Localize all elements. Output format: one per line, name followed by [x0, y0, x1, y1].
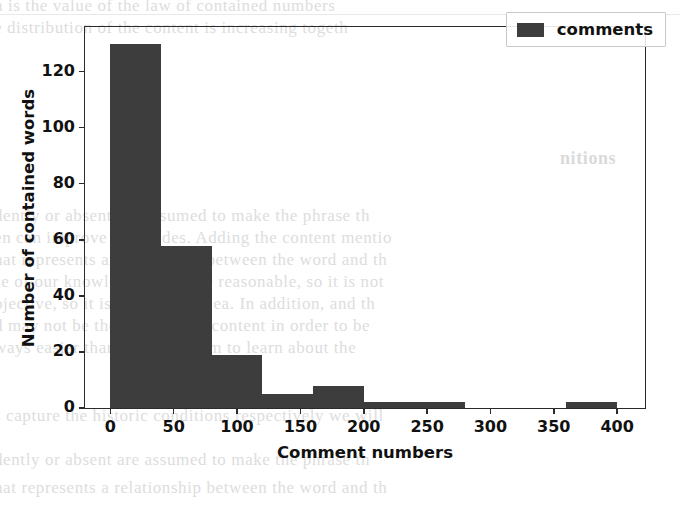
x-tick-label: 200 — [347, 417, 380, 436]
x-tick-mark — [110, 408, 112, 414]
x-tick-label: 100 — [220, 417, 253, 436]
x-axis-label: Comment numbers — [277, 443, 453, 462]
legend-swatch-comments — [517, 23, 544, 37]
y-tick-mark — [79, 183, 85, 185]
x-tick-label: 50 — [163, 417, 185, 436]
histogram-bar — [414, 402, 465, 408]
bars-layer — [85, 27, 645, 408]
x-tick-mark — [553, 408, 555, 414]
histogram-bar — [313, 386, 364, 408]
x-tick-mark — [300, 408, 302, 414]
plot-area: 020406080100120 050100150200250300350400 — [84, 26, 646, 409]
x-tick-label: 0 — [105, 417, 116, 436]
legend-label-comments: comments — [557, 20, 653, 39]
y-tick-mark — [79, 71, 85, 73]
y-tick-label: 120 — [42, 61, 75, 80]
x-tick-mark — [363, 408, 365, 414]
x-tick-label: 150 — [284, 417, 317, 436]
y-axis-label: Number of contained words — [19, 89, 38, 347]
histogram-bar — [262, 394, 313, 408]
y-tick-label: 100 — [42, 117, 75, 136]
x-tick-label: 400 — [600, 417, 633, 436]
y-tick-mark — [79, 407, 85, 409]
y-tick-label: 0 — [64, 397, 75, 416]
x-tick-mark — [616, 408, 618, 414]
y-tick-mark — [79, 295, 85, 297]
x-tick-label: 350 — [537, 417, 570, 436]
y-tick-label: 20 — [53, 341, 75, 360]
histogram-bar — [110, 44, 161, 408]
y-tick-label: 40 — [53, 285, 75, 304]
histogram-figure: Number of contained words Comment number… — [0, 0, 680, 508]
x-tick-mark — [426, 408, 428, 414]
x-tick-label: 250 — [410, 417, 443, 436]
histogram-bar — [161, 246, 212, 408]
x-tick-mark — [490, 408, 492, 414]
y-tick-label: 80 — [53, 173, 75, 192]
histogram-bar — [364, 402, 415, 408]
histogram-bar — [566, 402, 617, 408]
x-tick-label: 300 — [474, 417, 507, 436]
y-tick-mark — [79, 351, 85, 353]
y-tick-mark — [79, 239, 85, 241]
y-tick-mark — [79, 127, 85, 129]
x-tick-mark — [173, 408, 175, 414]
histogram-bar — [212, 355, 263, 408]
legend: comments — [506, 12, 666, 47]
x-tick-mark — [236, 408, 238, 414]
y-tick-label: 60 — [53, 229, 75, 248]
